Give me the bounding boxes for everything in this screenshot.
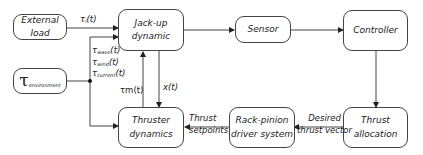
block-environment: τenvironment (13, 68, 67, 94)
rackpinion-line2: driver system (231, 128, 293, 142)
block-jackup-dynamic: Jack-up dynamic (118, 9, 184, 51)
external-load-label: External load (14, 14, 66, 41)
branch-node (88, 79, 92, 83)
block-external-load: External load (13, 14, 67, 40)
signal-desired-thrust-vector: Desired thrust vector (297, 113, 352, 137)
signal-thrust-setpoints: Thrust setpoints (189, 113, 228, 137)
sensor-label: Sensor (248, 23, 279, 37)
signal-tau-m: τm(t) (120, 85, 143, 95)
controller-label: Controller (353, 24, 397, 38)
jackup-label-line2: dynamic (132, 30, 170, 44)
block-rackpinion: Rack-pinion driver system (229, 107, 295, 148)
signal-tau-l: τl(t) (80, 14, 96, 24)
thruster-line2: dynamics (129, 128, 172, 142)
signal-tau-current: τcurrent(t) (92, 68, 125, 78)
block-sensor: Sensor (235, 16, 291, 43)
block-thruster-dynamics: Thruster dynamics (118, 107, 184, 148)
thruster-line1: Thruster (132, 114, 170, 128)
block-controller: Controller (343, 10, 408, 51)
thrust-allocation-line1: Thrust (361, 114, 390, 128)
environment-label: τenvironment (19, 68, 60, 94)
rackpinion-line1: Rack-pinion (236, 114, 289, 128)
thrust-allocation-line2: allocation (354, 128, 398, 142)
block-thrust-allocation: Thrust allocation (343, 107, 408, 148)
jackup-label-line1: Jack-up (135, 17, 168, 31)
signal-tau-wind: τwind(t) (92, 57, 119, 67)
signal-x-t: x(t) (163, 82, 178, 92)
signal-tau-wave: τwave(t) (92, 45, 120, 55)
